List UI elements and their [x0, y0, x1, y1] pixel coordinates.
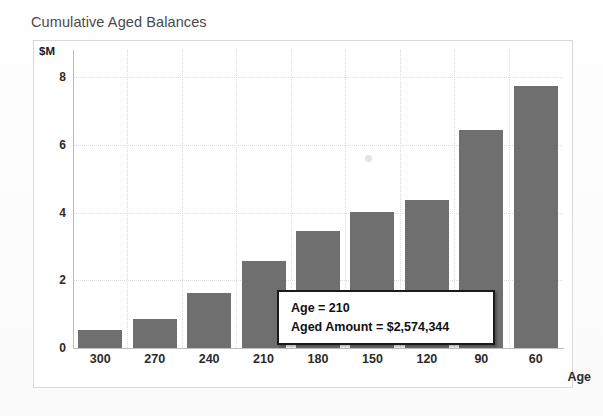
x-tick-90: 90: [474, 352, 488, 366]
x-tick-240: 240: [199, 352, 220, 366]
x-tick-210: 210: [253, 352, 274, 366]
gridline-vertical: [509, 50, 510, 348]
bar-270[interactable]: [133, 319, 177, 348]
x-tick-150: 150: [362, 352, 383, 366]
gridline-vertical: [182, 50, 183, 348]
y-tick-6: 6: [59, 138, 66, 152]
tooltip-amount-line: Aged Amount = $2,574,344: [291, 318, 493, 337]
y-axis-line: [73, 50, 74, 349]
x-tick-120: 120: [416, 352, 437, 366]
x-axis-tick-labels: 3002702402101801501209060: [73, 352, 563, 370]
x-tick-270: 270: [144, 352, 165, 366]
chart-screenshot: Cumulative Aged Balances $M 02468 300270…: [0, 0, 603, 416]
bar-60[interactable]: [514, 86, 558, 348]
x-tick-180: 180: [308, 352, 329, 366]
gridline-vertical: [127, 50, 128, 348]
x-tick-60: 60: [529, 352, 543, 366]
tooltip-age-line: Age = 210: [291, 299, 493, 318]
x-axis-line: [73, 348, 564, 349]
bar-240[interactable]: [187, 293, 231, 348]
x-axis-title: Age: [567, 370, 591, 384]
y-axis-tick-labels: 02468: [33, 50, 66, 348]
data-point-tooltip: Age = 210 Aged Amount = $2,574,344: [277, 290, 495, 345]
bar-300[interactable]: [78, 330, 122, 348]
y-tick-2: 2: [59, 273, 66, 287]
gridline-vertical: [236, 50, 237, 348]
y-tick-4: 4: [59, 206, 66, 220]
y-tick-0: 0: [59, 341, 66, 355]
chart-title: Cumulative Aged Balances: [31, 14, 207, 30]
gridline-horizontal: [73, 77, 563, 78]
y-tick-8: 8: [59, 70, 66, 84]
x-tick-300: 300: [90, 352, 111, 366]
